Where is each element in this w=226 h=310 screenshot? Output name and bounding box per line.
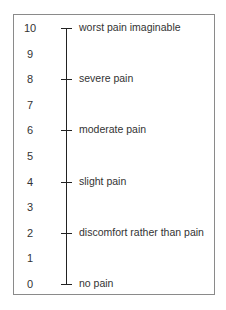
tick-8 bbox=[61, 79, 72, 80]
scale-number-4: 4 bbox=[18, 176, 42, 188]
scale-number-1: 1 bbox=[18, 252, 42, 264]
scale-number-10: 10 bbox=[18, 22, 42, 34]
scale-number-9: 9 bbox=[18, 48, 42, 60]
scale-number-6: 6 bbox=[18, 124, 42, 136]
scale-number-8: 8 bbox=[18, 73, 42, 85]
scale-number-5: 5 bbox=[18, 150, 42, 162]
scale-axis-line bbox=[66, 28, 67, 284]
anchor-label-2: discomfort rather than pain bbox=[79, 226, 204, 238]
tick-0 bbox=[61, 284, 72, 285]
scale-number-3: 3 bbox=[18, 201, 42, 213]
tick-6 bbox=[61, 130, 72, 131]
scale-frame bbox=[13, 14, 215, 295]
scale-number-2: 2 bbox=[18, 227, 42, 239]
tick-4 bbox=[61, 182, 72, 183]
anchor-label-8: severe pain bbox=[79, 72, 133, 84]
anchor-label-0: no pain bbox=[79, 277, 113, 289]
tick-2 bbox=[61, 233, 72, 234]
tick-10 bbox=[61, 28, 72, 29]
scale-number-7: 7 bbox=[18, 99, 42, 111]
anchor-label-4: slight pain bbox=[79, 175, 126, 187]
scale-number-0: 0 bbox=[18, 278, 42, 290]
anchor-label-6: moderate pain bbox=[79, 123, 146, 135]
anchor-label-10: worst pain imaginable bbox=[79, 21, 181, 33]
